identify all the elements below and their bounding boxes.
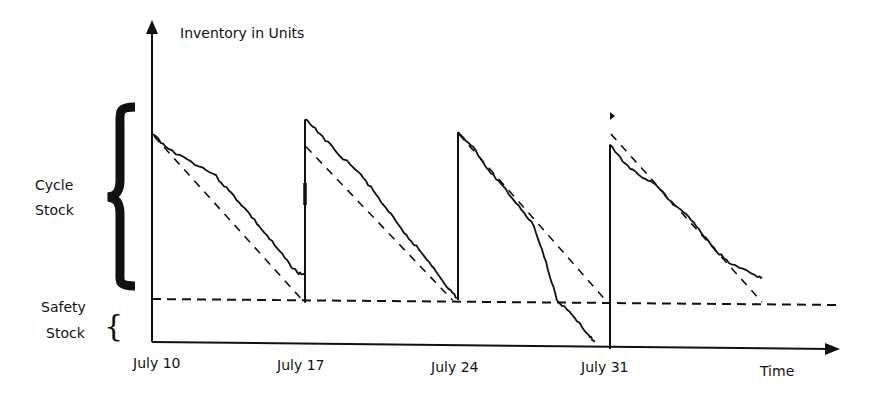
inventory-cycle-diagram: Inventory in Units Time July 10 July 17 …: [0, 0, 879, 405]
safety-stock-label-line2: Stock: [46, 325, 86, 341]
planned-depletion-line: [611, 134, 762, 302]
x-axis-arrow-icon: [825, 343, 840, 355]
safety-stock-brace-icon: {: [104, 308, 123, 343]
x-axis-label: Time: [759, 363, 794, 379]
order-point-marker: [610, 112, 615, 120]
x-tick-label: July 31: [580, 359, 628, 375]
actual-inventory-line: [305, 119, 457, 298]
y-axis-arrow-icon: [146, 20, 158, 34]
cycle-stock-label-line2: Stock: [35, 202, 75, 218]
actual-inventory-line: [153, 134, 305, 275]
x-axis: [152, 342, 830, 349]
planned-depletion-line: [306, 147, 452, 300]
cycle-stock-brace-icon: [108, 107, 135, 286]
x-tick-label: July 10: [132, 355, 180, 371]
actual-inventory-line: [610, 145, 762, 278]
actual-inventory-line: [458, 132, 595, 342]
planned-depletion-line: [154, 136, 300, 298]
cycle-stock-label-line1: Cycle: [35, 177, 73, 193]
safety-stock-label-line1: Safety: [41, 299, 86, 315]
planned-depletion-line: [459, 134, 605, 300]
y-axis-label: Inventory in Units: [180, 25, 304, 41]
x-tick-label: July 24: [430, 359, 479, 375]
x-tick-label: July 17: [276, 357, 324, 373]
safety-stock-line: [152, 299, 840, 305]
